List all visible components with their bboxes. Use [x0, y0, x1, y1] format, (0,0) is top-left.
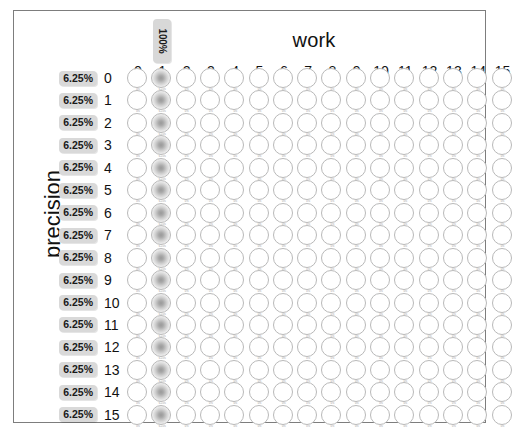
- heatmap-cell[interactable]: 6.25%: [151, 68, 173, 90]
- heatmap-cell[interactable]: 0%: [443, 203, 465, 225]
- heatmap-cell[interactable]: 0%: [443, 360, 465, 382]
- heatmap-cell[interactable]: 0%: [346, 337, 368, 359]
- heatmap-cell[interactable]: 0%: [127, 113, 149, 135]
- heatmap-cell[interactable]: 0%: [273, 203, 295, 225]
- heatmap-cell[interactable]: 0%: [176, 382, 198, 404]
- heatmap-cell[interactable]: 0%: [492, 382, 514, 404]
- heatmap-cell[interactable]: 6.25%: [151, 225, 173, 247]
- heatmap-cell[interactable]: 0%: [370, 405, 392, 427]
- heatmap-cell[interactable]: 0%: [249, 270, 271, 292]
- heatmap-cell[interactable]: 0%: [419, 293, 441, 315]
- heatmap-cell[interactable]: 0%: [273, 90, 295, 112]
- heatmap-cell[interactable]: 0%: [370, 225, 392, 247]
- heatmap-cell[interactable]: 0%: [467, 248, 489, 270]
- heatmap-cell[interactable]: 0%: [394, 158, 416, 180]
- heatmap-cell[interactable]: 0%: [224, 180, 246, 202]
- heatmap-cell[interactable]: 0%: [370, 135, 392, 157]
- heatmap-cell[interactable]: 6.25%: [151, 360, 173, 382]
- heatmap-cell[interactable]: 0%: [297, 203, 319, 225]
- heatmap-cell[interactable]: 0%: [273, 315, 295, 337]
- heatmap-cell[interactable]: 0%: [273, 270, 295, 292]
- heatmap-cell[interactable]: 0%: [443, 405, 465, 427]
- heatmap-cell[interactable]: 0%: [176, 248, 198, 270]
- heatmap-cell[interactable]: 0%: [370, 337, 392, 359]
- heatmap-cell[interactable]: 0%: [419, 315, 441, 337]
- heatmap-cell[interactable]: 0%: [346, 158, 368, 180]
- heatmap-cell[interactable]: 0%: [176, 315, 198, 337]
- heatmap-cell[interactable]: 0%: [176, 90, 198, 112]
- heatmap-cell[interactable]: 0%: [467, 405, 489, 427]
- heatmap-cell[interactable]: 0%: [127, 293, 149, 315]
- heatmap-cell[interactable]: 0%: [200, 180, 222, 202]
- heatmap-cell[interactable]: 0%: [467, 293, 489, 315]
- heatmap-cell[interactable]: 0%: [127, 405, 149, 427]
- heatmap-cell[interactable]: 0%: [249, 135, 271, 157]
- heatmap-cell[interactable]: 0%: [346, 270, 368, 292]
- heatmap-cell[interactable]: 0%: [370, 180, 392, 202]
- heatmap-cell[interactable]: 0%: [273, 248, 295, 270]
- heatmap-cell[interactable]: 0%: [370, 203, 392, 225]
- heatmap-cell[interactable]: 0%: [492, 158, 514, 180]
- heatmap-cell[interactable]: 0%: [419, 68, 441, 90]
- heatmap-cell[interactable]: 0%: [297, 158, 319, 180]
- heatmap-cell[interactable]: 0%: [249, 68, 271, 90]
- heatmap-cell[interactable]: 0%: [224, 135, 246, 157]
- heatmap-cell[interactable]: 0%: [127, 270, 149, 292]
- heatmap-cell[interactable]: 0%: [297, 225, 319, 247]
- heatmap-cell[interactable]: 0%: [127, 360, 149, 382]
- heatmap-cell[interactable]: 0%: [419, 135, 441, 157]
- heatmap-cell[interactable]: 0%: [224, 158, 246, 180]
- heatmap-cell[interactable]: 0%: [419, 270, 441, 292]
- heatmap-cell[interactable]: 0%: [200, 113, 222, 135]
- heatmap-cell[interactable]: 0%: [200, 158, 222, 180]
- heatmap-cell[interactable]: 0%: [443, 90, 465, 112]
- heatmap-cell[interactable]: 0%: [394, 270, 416, 292]
- heatmap-cell[interactable]: 0%: [127, 315, 149, 337]
- heatmap-cell[interactable]: 0%: [273, 68, 295, 90]
- heatmap-cell[interactable]: 0%: [127, 248, 149, 270]
- heatmap-cell[interactable]: 0%: [443, 337, 465, 359]
- heatmap-cell[interactable]: 0%: [443, 293, 465, 315]
- heatmap-cell[interactable]: 0%: [321, 158, 343, 180]
- heatmap-cell[interactable]: 0%: [419, 382, 441, 404]
- heatmap-cell[interactable]: 0%: [127, 158, 149, 180]
- heatmap-cell[interactable]: 0%: [492, 270, 514, 292]
- heatmap-cell[interactable]: 0%: [200, 248, 222, 270]
- heatmap-cell[interactable]: 0%: [443, 382, 465, 404]
- heatmap-cell[interactable]: 0%: [443, 225, 465, 247]
- heatmap-cell[interactable]: 0%: [249, 360, 271, 382]
- heatmap-cell[interactable]: 0%: [370, 315, 392, 337]
- heatmap-cell[interactable]: 0%: [419, 90, 441, 112]
- heatmap-cell[interactable]: 0%: [370, 90, 392, 112]
- heatmap-cell[interactable]: 0%: [273, 382, 295, 404]
- heatmap-cell[interactable]: 0%: [176, 270, 198, 292]
- heatmap-cell[interactable]: 0%: [467, 382, 489, 404]
- heatmap-cell[interactable]: 0%: [370, 382, 392, 404]
- heatmap-cell[interactable]: 0%: [249, 405, 271, 427]
- heatmap-cell[interactable]: 0%: [249, 337, 271, 359]
- heatmap-cell[interactable]: 0%: [394, 180, 416, 202]
- heatmap-cell[interactable]: 0%: [273, 337, 295, 359]
- heatmap-cell[interactable]: 0%: [346, 113, 368, 135]
- heatmap-cell[interactable]: 0%: [249, 248, 271, 270]
- heatmap-cell[interactable]: 0%: [297, 382, 319, 404]
- heatmap-cell[interactable]: 0%: [249, 90, 271, 112]
- heatmap-cell[interactable]: 0%: [394, 405, 416, 427]
- heatmap-cell[interactable]: 0%: [467, 180, 489, 202]
- heatmap-cell[interactable]: 0%: [346, 405, 368, 427]
- heatmap-cell[interactable]: 6.25%: [151, 248, 173, 270]
- heatmap-cell[interactable]: 0%: [273, 113, 295, 135]
- heatmap-cell[interactable]: 0%: [419, 180, 441, 202]
- heatmap-cell[interactable]: 0%: [297, 360, 319, 382]
- heatmap-cell[interactable]: 6.25%: [151, 90, 173, 112]
- heatmap-cell[interactable]: 0%: [346, 203, 368, 225]
- heatmap-cell[interactable]: 0%: [224, 315, 246, 337]
- heatmap-cell[interactable]: 0%: [394, 382, 416, 404]
- heatmap-cell[interactable]: 0%: [467, 68, 489, 90]
- heatmap-cell[interactable]: 0%: [467, 270, 489, 292]
- heatmap-cell[interactable]: 0%: [370, 270, 392, 292]
- heatmap-cell[interactable]: 0%: [273, 135, 295, 157]
- heatmap-cell[interactable]: 0%: [297, 337, 319, 359]
- heatmap-cell[interactable]: 6.25%: [151, 158, 173, 180]
- heatmap-cell[interactable]: 0%: [321, 180, 343, 202]
